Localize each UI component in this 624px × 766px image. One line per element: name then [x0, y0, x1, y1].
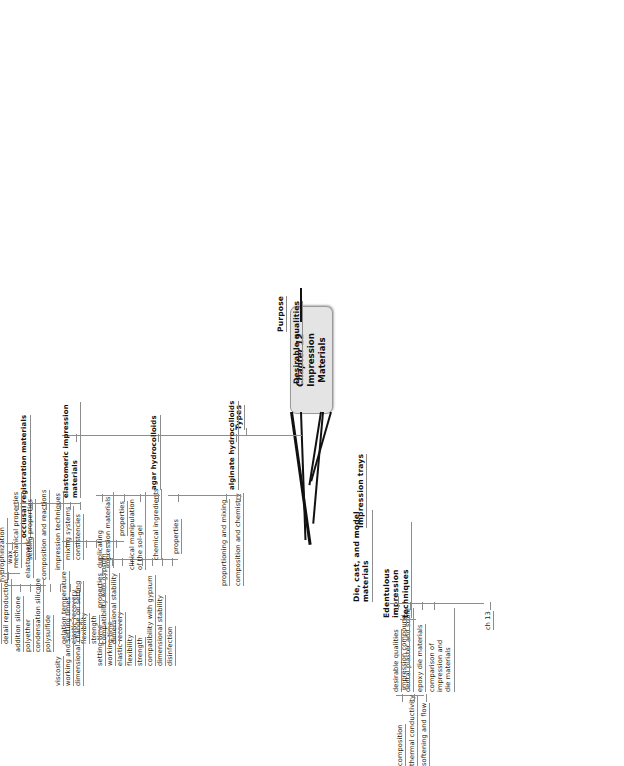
main-label-die-cast-model[interactable]: Die, cast, and model materials — [352, 510, 373, 602]
line-types-agar — [158, 434, 159, 442]
elastomeric-composition-child-3[interactable]: polysulfide — [44, 615, 54, 652]
elastomeric-setting-child-0[interactable]: viscosity — [54, 656, 64, 686]
elastomeric-composition-child-1[interactable]: polyether — [24, 619, 34, 652]
alginate-properties[interactable]: properties — [172, 519, 182, 554]
agar-property-5[interactable]: dimensional stability — [110, 573, 120, 644]
alginate-property-5[interactable]: compatibility with gypsum — [146, 575, 156, 666]
agar-clinical-manipulation[interactable]: clinical manipulation of the sol-gel — [128, 492, 146, 570]
elastomeric-setting-child-2[interactable]: dimensional change on setting — [74, 581, 84, 686]
line-types-elastomeric — [76, 434, 77, 442]
elastomeric-composition-child-line-3 — [50, 584, 51, 592]
types-child-elastomeric[interactable]: elastomeric impression materials — [62, 402, 81, 498]
line-types-occlusal — [30, 434, 31, 442]
die-child-2[interactable]: epoxy die materials — [416, 624, 426, 692]
line-el-set — [32, 502, 33, 510]
line-die-ch13 — [490, 602, 491, 610]
line-occ-wax — [12, 542, 13, 550]
types-child-alginate[interactable]: alginate hydrocolloids — [228, 401, 239, 490]
elastomeric-mechanical-child-6[interactable]: detail reproduction — [2, 579, 12, 644]
die-child-line-1 — [410, 602, 411, 610]
edentulous-child-2[interactable]: softening and flow — [420, 703, 430, 766]
main-label-desirable-qualities[interactable]: Desirable qualities — [292, 301, 303, 384]
line-agar-chem — [158, 494, 159, 502]
elastomeric-setting-child-line-1 — [70, 584, 71, 592]
line-ed-compound — [406, 618, 407, 626]
alginate-property-line-2 — [122, 558, 123, 566]
edentulous-child-0[interactable]: composition — [396, 724, 406, 766]
elastomeric-setting-child-line-0 — [60, 584, 61, 592]
line-occ-el — [30, 542, 31, 550]
occlusal-child-wax[interactable]: wax — [6, 550, 16, 564]
alginate-property-4[interactable]: strength — [136, 637, 146, 666]
agar-property-line-2 — [86, 540, 87, 548]
edentulous-child-line-1 — [414, 694, 415, 702]
line-el-mech — [18, 502, 19, 510]
agar-property-line-5 — [116, 540, 117, 548]
alginate-property-7[interactable]: disinfection — [166, 626, 176, 666]
alginate-property-line-7 — [172, 558, 173, 566]
line-alginate-proportioning — [226, 494, 227, 502]
agar-properties[interactable]: properties — [118, 501, 128, 536]
line-agar-duplicating — [102, 494, 103, 502]
line-agar-properties — [124, 494, 125, 502]
edentulous-child-line-0 — [402, 694, 403, 702]
die-child-line-3 — [434, 602, 435, 610]
elastomeric-composition-child-0[interactable]: addition silicone — [14, 596, 24, 652]
elastomeric-mechanical-spine — [0, 573, 20, 574]
edentulous-child-line-2 — [426, 694, 427, 702]
elastomeric-composition-child-line-2 — [40, 584, 41, 592]
line-el-comp — [46, 502, 47, 510]
die-child-line-2 — [422, 602, 423, 610]
elastomeric-setting-child-1[interactable]: working and setting times — [64, 597, 74, 686]
main-label-purpose[interactable]: Purpose — [276, 296, 287, 332]
line-el-mix — [70, 502, 71, 510]
alginate-property-6[interactable]: dimensional stability — [156, 595, 166, 666]
line-el-tech — [60, 502, 61, 510]
die-child-line-0 — [398, 602, 399, 610]
line-alginate-properties — [178, 494, 179, 502]
line-el-cons — [80, 502, 81, 510]
elastomeric-setting-child-line-2 — [80, 584, 81, 592]
agar-property-line-4 — [106, 540, 107, 548]
alginate-composition[interactable]: composition and chemistry — [234, 493, 244, 586]
elastomeric-consistencies[interactable]: consistencies — [74, 514, 84, 560]
types-child-agar[interactable]: agar hydrocolloids — [150, 415, 161, 490]
line-agar-clinical — [140, 494, 141, 502]
root-line-2: Impression Materials — [306, 314, 328, 406]
die-child-3[interactable]: comparison of impression and die materia… — [428, 608, 455, 692]
die-ch13[interactable]: ch 13 — [484, 611, 494, 630]
edentulous-child-1[interactable]: thermal conductivity — [408, 695, 418, 766]
types-connector — [246, 428, 247, 436]
types-spine — [62, 435, 302, 436]
alginate-proportioning[interactable]: proportioning and mixing — [220, 499, 230, 586]
agar-property-3[interactable]: strength — [90, 615, 100, 644]
line-alginate-composition — [240, 494, 241, 502]
agar-duplicating-properties[interactable]: properties — [96, 573, 106, 608]
agar-property-line-3 — [96, 540, 97, 548]
die-spine — [390, 603, 484, 604]
elastomeric-mixing-systems[interactable]: mixing systems — [64, 506, 74, 560]
alginate-property-3[interactable]: flexibility — [126, 635, 136, 666]
line-types-alginate — [236, 434, 237, 442]
elastomeric-mechanical-child-line-6 — [8, 572, 9, 580]
